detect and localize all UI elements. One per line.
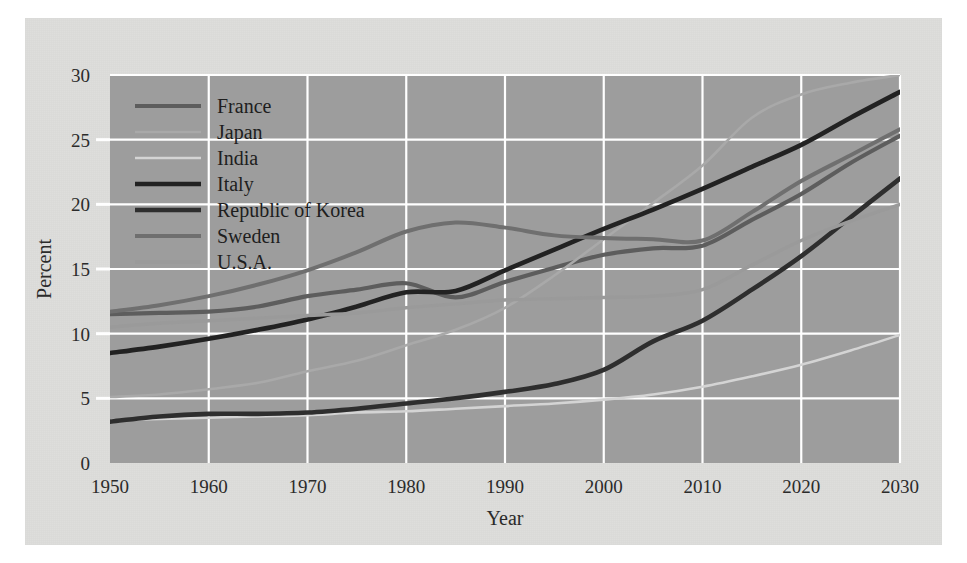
- x-tick-label: 1980: [387, 476, 425, 497]
- legend-label-india: India: [217, 147, 258, 169]
- axis-ticks: [96, 140, 110, 399]
- y-tick-label: 20: [71, 194, 90, 215]
- y-tick-label: 10: [71, 324, 90, 345]
- figure-panel: 0510152025301950196019701980199020002010…: [25, 18, 942, 545]
- x-tick-label: 1990: [486, 476, 524, 497]
- y-axis-tick-labels: 051015202530: [71, 65, 90, 474]
- x-tick-label: 1950: [91, 476, 129, 497]
- y-tick-label: 25: [71, 130, 90, 151]
- x-tick-label: 2020: [782, 476, 820, 497]
- y-tick-label: 0: [81, 453, 91, 474]
- legend-label-japan: Japan: [217, 121, 263, 144]
- legend-label-republic-of-korea: Republic of Korea: [217, 199, 365, 222]
- x-axis-tick-labels: 195019601970198019902000201020202030: [91, 476, 919, 497]
- x-tick-label: 2010: [684, 476, 722, 497]
- legend-label-sweden: Sweden: [217, 225, 280, 247]
- legend-label-france: France: [217, 95, 272, 117]
- line-chart: 0510152025301950196019701980199020002010…: [25, 18, 942, 545]
- y-tick-label: 5: [81, 388, 91, 409]
- legend-label-u-s-a: U.S.A.: [217, 251, 272, 273]
- x-tick-label: 1960: [190, 476, 228, 497]
- x-axis-title: Year: [487, 507, 524, 529]
- legend-label-italy: Italy: [217, 173, 254, 196]
- x-tick-label: 2000: [585, 476, 623, 497]
- y-tick-label: 15: [71, 259, 90, 280]
- y-axis-title: Percent: [33, 239, 55, 299]
- x-tick-label: 2030: [881, 476, 919, 497]
- y-tick-label: 30: [71, 65, 90, 86]
- x-tick-label: 1970: [289, 476, 327, 497]
